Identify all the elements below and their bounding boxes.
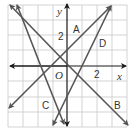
- line-a-label: A: [73, 24, 80, 35]
- y-axis-label: y: [56, 5, 62, 17]
- line-b-label: B: [114, 100, 121, 111]
- x-axis-label: x: [116, 70, 122, 82]
- line-d-label: D: [99, 38, 106, 49]
- line-a-tail: [9, 57, 60, 108]
- coordinate-graph: y x O 2 2 A B C D: [0, 0, 139, 134]
- y-tick-label-2: 2: [58, 31, 64, 42]
- origin-label: O: [55, 69, 63, 81]
- line-a: [60, 6, 111, 57]
- line-c-label: C: [42, 100, 49, 111]
- line-c: [17, 5, 40, 64]
- line-d: [82, 6, 111, 66]
- x-tick-label-2: 2: [94, 69, 100, 80]
